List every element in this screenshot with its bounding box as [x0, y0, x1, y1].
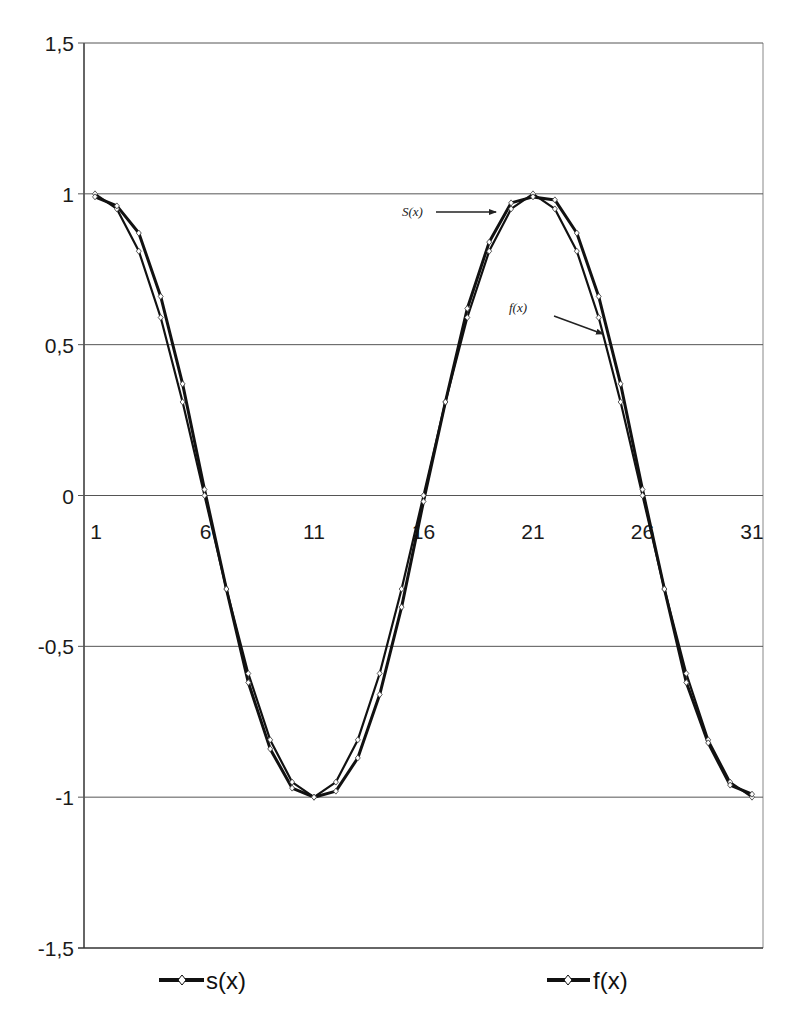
diamond-marker-icon — [564, 975, 572, 985]
diamond-marker-icon — [178, 975, 186, 985]
y-tick-label: -0,5 — [38, 635, 74, 658]
y-tick-label: -1 — [55, 786, 74, 809]
data-point-marker — [180, 399, 185, 405]
annotation-s-label: S(x) — [402, 204, 423, 219]
data-point-marker — [399, 586, 404, 592]
y-axis-ticks: 1,510,50-0,5-1-1,5 — [38, 32, 74, 960]
legend-item-s: s(x) — [159, 967, 246, 994]
y-tick-label: 1 — [62, 183, 74, 206]
y-tick-label: 0 — [62, 485, 74, 508]
x-tick-label: 31 — [740, 520, 763, 543]
x-tick-label: 11 — [303, 520, 325, 543]
legend-label-f: f(x) — [593, 967, 628, 994]
x-axis-ticks: 161116212631 — [90, 520, 764, 543]
x-tick-label: 6 — [200, 520, 212, 543]
x-tick-label: 1 — [90, 520, 102, 543]
data-point-marker — [618, 399, 623, 405]
x-tick-label: 21 — [521, 520, 544, 543]
y-tick-label: 0,5 — [45, 334, 74, 357]
y-tick-label: -1,5 — [38, 937, 74, 960]
legend: s(x) f(x) — [159, 967, 628, 994]
legend-label-s: s(x) — [206, 967, 246, 994]
y-tick-label: 1,5 — [45, 32, 74, 55]
plot-area: 1,510,50-0,5-1-1,5 161116212631 — [38, 32, 764, 960]
line-chart: 1,510,50-0,5-1-1,5 161116212631 S(x) f(x… — [0, 0, 793, 1023]
legend-item-f: f(x) — [547, 967, 628, 994]
annotation-f-arrow — [554, 316, 603, 334]
annotation-f-label: f(x) — [509, 300, 527, 315]
